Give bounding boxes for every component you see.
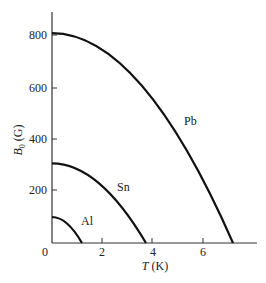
y-axis-label: B0 (G)	[11, 124, 27, 155]
x-tick-6: 6	[200, 245, 206, 259]
y-tick-600: 600	[29, 81, 47, 95]
pb-curve	[52, 33, 233, 243]
svg-text:B0 (G): B0 (G)	[11, 124, 27, 155]
al-curve	[52, 217, 82, 243]
x-tick-4: 4	[150, 245, 156, 259]
pb-label: Pb	[184, 114, 197, 128]
y-tick-400: 400	[29, 132, 47, 146]
x-axis-label: T (K)	[142, 259, 168, 273]
y-tick-800: 800	[29, 28, 47, 42]
y-tick-200: 200	[29, 183, 47, 197]
x-ticks	[102, 238, 203, 243]
al-label: Al	[81, 214, 94, 228]
y-ticks	[52, 35, 57, 190]
origin-label: 0	[42, 245, 48, 259]
x-tick-2: 2	[99, 245, 105, 259]
sn-curve	[52, 163, 146, 243]
sn-label: Sn	[117, 180, 130, 194]
critical-field-chart: 800 600 400 200 0 2 4 6 T (K) B0 (G) Pb …	[0, 0, 266, 283]
